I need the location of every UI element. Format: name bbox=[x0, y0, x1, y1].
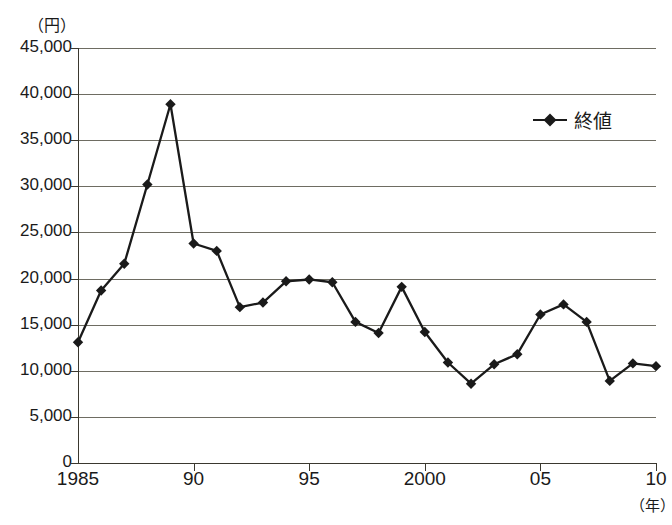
series-line-closing-price bbox=[78, 104, 656, 383]
y-axis-tick-label: 15,000 bbox=[0, 314, 72, 334]
data-point-marker bbox=[188, 238, 198, 248]
y-axis-tick-label: 20,000 bbox=[0, 268, 72, 288]
data-point-marker bbox=[142, 179, 152, 189]
data-point-marker bbox=[512, 349, 522, 359]
x-axis-unit-label: （年） bbox=[630, 494, 672, 515]
data-point-marker bbox=[535, 309, 545, 319]
data-point-marker bbox=[373, 328, 383, 338]
data-point-marker bbox=[304, 274, 314, 284]
x-axis-tick-label: 95 bbox=[299, 468, 320, 490]
legend-label: 終値 bbox=[574, 106, 612, 133]
y-axis-tick-mark bbox=[71, 186, 78, 187]
x-axis-tick-mark bbox=[540, 463, 541, 471]
y-axis-tick-mark bbox=[71, 94, 78, 95]
data-point-marker bbox=[327, 277, 337, 287]
x-axis-tick-label: 90 bbox=[183, 468, 204, 490]
y-axis-tick-label: 45,000 bbox=[0, 37, 72, 57]
data-point-marker bbox=[212, 246, 222, 256]
legend: 終値 bbox=[533, 106, 612, 133]
x-axis-tick-mark bbox=[656, 463, 657, 471]
y-axis-tick-label: 35,000 bbox=[0, 129, 72, 149]
diamond-marker-icon bbox=[533, 112, 567, 128]
x-axis-line bbox=[78, 463, 656, 464]
y-axis-tick-mark bbox=[71, 140, 78, 141]
y-axis-tick-mark bbox=[71, 325, 78, 326]
x-axis-tick-label: 05 bbox=[530, 468, 551, 490]
x-axis-tick-label: 1985 bbox=[57, 468, 99, 490]
y-axis-tick-mark bbox=[71, 48, 78, 49]
y-axis-tick-mark bbox=[71, 463, 78, 464]
y-axis-tick-mark bbox=[71, 417, 78, 418]
y-axis-tick-label: 25,000 bbox=[0, 221, 72, 241]
x-axis-tick-mark bbox=[309, 463, 310, 471]
y-axis-tick-mark bbox=[71, 232, 78, 233]
data-point-marker bbox=[235, 302, 245, 312]
x-axis-tick-label: 10 bbox=[645, 468, 666, 490]
y-axis-tick-mark bbox=[71, 371, 78, 372]
x-axis-tick-label: 2000 bbox=[404, 468, 446, 490]
x-axis-tick-mark bbox=[425, 463, 426, 471]
x-axis-tick-mark bbox=[194, 463, 195, 471]
y-axis-tick-label: 5,000 bbox=[0, 406, 72, 426]
data-point-marker bbox=[396, 282, 406, 292]
y-axis-tick-label: 10,000 bbox=[0, 360, 72, 380]
data-point-marker bbox=[350, 317, 360, 327]
y-axis-unit-label: （円） bbox=[28, 12, 76, 36]
data-point-marker bbox=[165, 99, 175, 109]
data-point-marker bbox=[73, 337, 83, 347]
y-axis-tick-label: 40,000 bbox=[0, 83, 72, 103]
data-point-marker bbox=[651, 361, 661, 371]
chart-title bbox=[0, 0, 672, 3]
y-axis-tick-label: 30,000 bbox=[0, 175, 72, 195]
y-axis-tick-mark bbox=[71, 279, 78, 280]
chart-container: （円） （年） 05,00010,00015,00020,00025,00030… bbox=[0, 0, 672, 525]
